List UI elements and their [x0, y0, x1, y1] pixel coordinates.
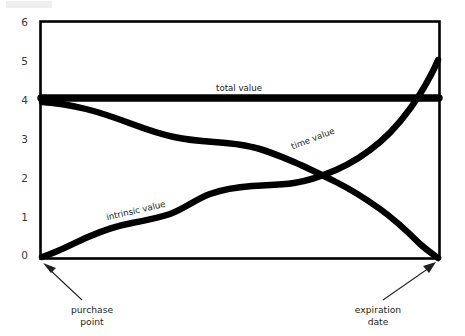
y-tick-6: 6: [21, 16, 28, 28]
y-tick-1: 1: [21, 211, 28, 223]
purchase-point-arrow-line: [49, 269, 82, 300]
purchase-point-label-line2: point: [80, 316, 104, 327]
expiration-date-annotation: expiration date: [355, 262, 436, 327]
purchase-point-annotation: purchase point: [43, 263, 113, 327]
series-label-total-value: total value: [216, 83, 262, 93]
y-tick-5: 5: [21, 55, 28, 67]
y-tick-0: 0: [21, 249, 28, 261]
y-axis-tick-labels: 6 5 4 3 2 1 0: [21, 16, 28, 261]
chart-canvas: 6 5 4 3 2 1 0 total value time value int…: [0, 0, 465, 336]
purchase-point-arrow-head: [43, 263, 56, 273]
y-tick-3: 3: [21, 133, 28, 145]
y-tick-2: 2: [21, 172, 28, 184]
purchase-point-label-line1: purchase: [71, 304, 114, 315]
option-value-chart: 6 5 4 3 2 1 0 total value time value int…: [0, 0, 465, 336]
expiration-date-arrow-line: [383, 268, 429, 300]
series-label-time-value: time value: [290, 126, 336, 152]
expiration-date-label-line2: date: [368, 316, 389, 327]
expiration-date-label-line1: expiration: [355, 304, 401, 315]
y-tick-4: 4: [21, 94, 28, 106]
